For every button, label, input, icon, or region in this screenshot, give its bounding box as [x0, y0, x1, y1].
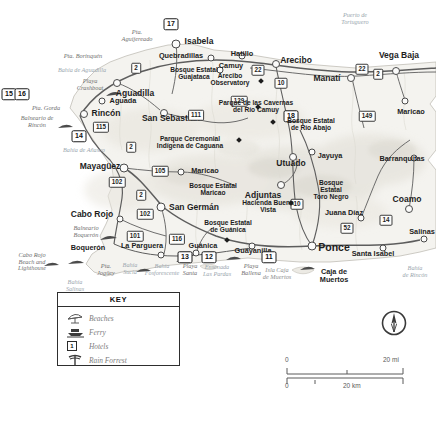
town-marker-maricao[interactable]: [178, 169, 185, 176]
legend-label-ferry: Ferry: [89, 328, 106, 337]
hotel-badge-18[interactable]: 18: [284, 110, 299, 122]
hotel-badge-14[interactable]: 14: [72, 130, 87, 142]
town-marker-isabela[interactable]: [172, 40, 181, 49]
route-shield-101-14[interactable]: 101: [127, 231, 144, 242]
route-shield-2-6[interactable]: 2: [373, 69, 383, 80]
hotel-icon: 1: [67, 341, 89, 351]
town-marker-aguada[interactable]: [99, 98, 106, 105]
hotel-badge-13[interactable]: 13: [178, 251, 193, 263]
route-shield-102-11[interactable]: 102: [109, 177, 126, 188]
town-marker-ponce[interactable]: [308, 242, 317, 251]
route-shield-102-13[interactable]: 102: [137, 209, 154, 220]
route-shield-22-5[interactable]: 22: [355, 64, 368, 75]
hotel-badge-11[interactable]: 11: [262, 251, 277, 263]
scale-km-end: 20 km: [343, 382, 361, 389]
route-shield-149-7[interactable]: 149: [359, 111, 376, 122]
route-shield-2-0[interactable]: 2: [131, 63, 141, 74]
hotel-number-glyph: 1: [67, 341, 77, 351]
scale-km-start: 0: [285, 382, 289, 389]
route-shield-116-15[interactable]: 116: [169, 234, 185, 245]
town-marker-jayuya[interactable]: [309, 149, 316, 156]
route-shield-2-12[interactable]: 2: [136, 190, 146, 201]
town-marker-quebradillas[interactable]: [208, 55, 215, 62]
legend-label-rain-forest: Rain Forrest: [89, 356, 127, 365]
town-marker-vega-baja[interactable]: [392, 67, 400, 75]
legend-item-beaches: Beaches: [67, 311, 179, 325]
town-marker-salinas[interactable]: [421, 236, 428, 243]
legend-title: KEY: [58, 293, 179, 307]
scale-mi-end: 20 mi: [383, 356, 399, 363]
town-marker-aguadilla[interactable]: [113, 79, 121, 87]
town-marker-utuado[interactable]: [289, 153, 297, 161]
town-marker-guayanilla[interactable]: [249, 243, 256, 250]
legend-item-rain-forest: Rain Forrest: [67, 353, 179, 367]
rain-forest-icon: [67, 354, 89, 366]
route-shield-105-10[interactable]: 105: [152, 166, 169, 177]
town-marker-camuy[interactable]: [217, 67, 224, 74]
town-marker-barranquitas[interactable]: [411, 155, 418, 162]
ferry-icon: [67, 326, 89, 338]
route-shield-10-3[interactable]: 10: [274, 78, 287, 89]
hotel-badge-12[interactable]: 12: [202, 251, 217, 263]
route-shield-115-8[interactable]: 115: [93, 122, 109, 133]
town-marker-hatillo[interactable]: [239, 53, 246, 60]
hotel-badge-17[interactable]: 17: [164, 18, 179, 30]
route-shield-52-17[interactable]: 52: [340, 223, 353, 234]
legend-item-ferry: Ferry: [67, 325, 179, 339]
scale-bar: 0 20 mi 0 20 km: [285, 360, 409, 394]
legend-label-hotels: Hotels: [89, 342, 108, 351]
hotel-badge-16[interactable]: 16: [15, 88, 30, 100]
town-marker-coamo[interactable]: [405, 205, 413, 213]
town-marker-mayaguez[interactable]: [120, 164, 129, 173]
scale-mi-start: 0: [285, 356, 289, 363]
route-shield-22-2[interactable]: 22: [251, 65, 264, 76]
town-marker-juana-diaz[interactable]: [358, 215, 365, 222]
town-marker-adjuntas[interactable]: [277, 181, 285, 189]
town-marker-san-sebastian[interactable]: [160, 109, 168, 117]
beach-umbrella-icon: [67, 312, 89, 324]
map-legend: KEY Beaches Ferry: [57, 292, 180, 366]
legend-rows: Beaches Ferry 1 Hotels: [58, 307, 179, 367]
town-marker-la-parguera[interactable]: [158, 252, 165, 259]
town-marker-santa-isabel[interactable]: [380, 245, 387, 252]
route-shield-14-18[interactable]: 14: [379, 215, 392, 226]
town-marker-guanica[interactable]: [193, 250, 200, 257]
route-shield-129-4[interactable]: 129: [231, 96, 248, 107]
town-marker-san-german[interactable]: [157, 203, 166, 212]
town-marker-manati[interactable]: [347, 74, 355, 82]
route-shield-111-1[interactable]: 111: [188, 110, 204, 121]
compass-rose: [381, 310, 407, 336]
town-marker-arecibo[interactable]: [272, 60, 280, 68]
legend-label-beaches: Beaches: [89, 314, 114, 323]
town-marker-cabo-rojo[interactable]: [117, 216, 124, 223]
town-marker-rincon[interactable]: [80, 110, 88, 118]
route-shield-2-9[interactable]: 2: [126, 142, 136, 153]
legend-item-hotels: 1 Hotels: [67, 339, 179, 353]
town-marker-maricao[interactable]: [402, 98, 409, 105]
